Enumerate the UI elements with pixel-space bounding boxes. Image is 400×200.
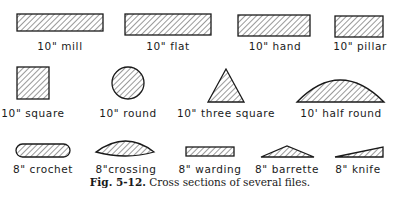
half-round-section-shape (297, 80, 384, 102)
pillar-label: 10" pillar (333, 40, 387, 52)
barrette-section-shape (261, 146, 314, 157)
crossing-section-shape (96, 141, 154, 156)
square-label: 10" square (1, 107, 64, 119)
three-square-section-shape (208, 69, 244, 102)
barrette-label: 8" barrette (255, 163, 319, 175)
pillar-section-shape (335, 16, 383, 37)
square-section-shape (17, 67, 49, 99)
crochet-section-shape (16, 144, 70, 157)
mill-label: 10" mill (37, 40, 82, 52)
flat-label: 10" flat (146, 40, 190, 52)
half-round-label: 10' half round (300, 107, 382, 119)
flat-section-shape (125, 14, 211, 35)
round-section-shape (112, 67, 144, 99)
caption-text: Cross sections of several files. (146, 176, 310, 188)
three-square-label: 10" three square (177, 107, 275, 119)
round-label: 10" round (99, 107, 156, 119)
knife-label: 8" knife (335, 163, 380, 175)
figure-caption: Fig. 5-12. Cross sections of several fil… (90, 176, 310, 188)
caption-label: Fig. 5-12. (90, 176, 146, 188)
warding-section-shape (186, 147, 234, 156)
knife-section-shape (335, 147, 383, 157)
hand-label: 10" hand (249, 40, 302, 52)
mill-section-shape (17, 14, 103, 31)
hand-section-shape (238, 15, 310, 36)
crossing-label: 8"crossing (96, 163, 157, 175)
crochet-label: 8" crochet (13, 163, 73, 175)
warding-label: 8" warding (179, 163, 242, 175)
